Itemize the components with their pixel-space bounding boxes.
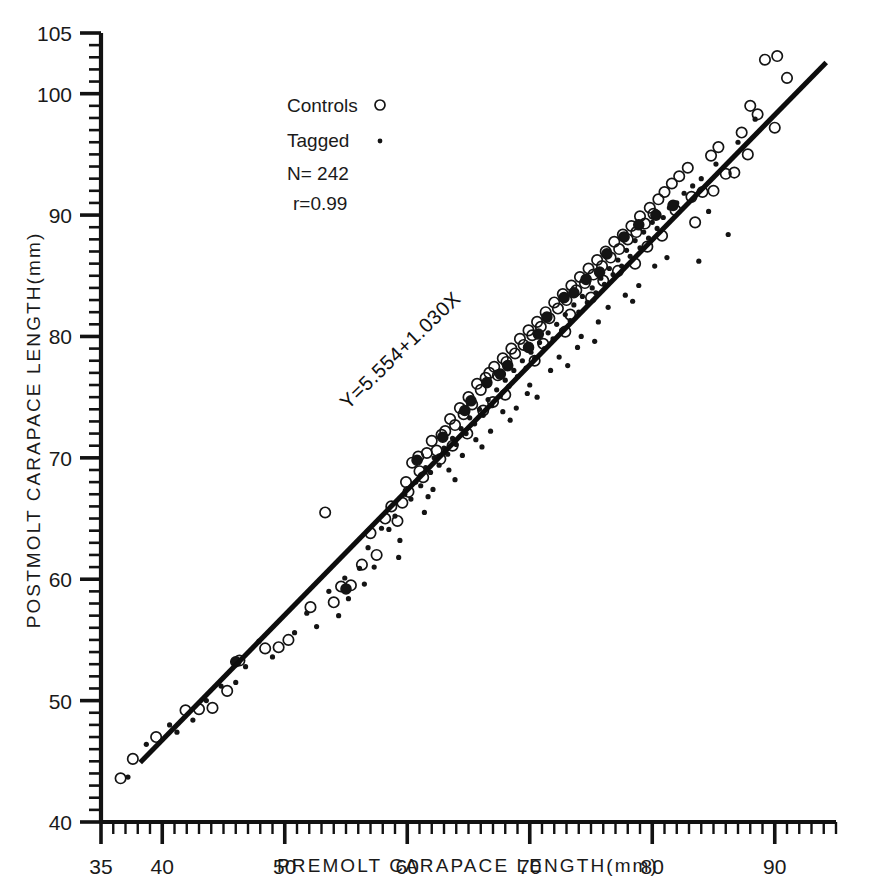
data-point-tagged (630, 299, 635, 304)
data-point-tagged (144, 742, 149, 747)
data-point-tagged (460, 453, 465, 458)
data-point-tagged (520, 358, 525, 363)
data-point-tagged (326, 589, 331, 594)
y-tick-label: 90 (49, 204, 72, 227)
data-point-tagged (430, 487, 435, 492)
data-point-overlap (542, 312, 552, 322)
data-point-tagged (606, 305, 611, 310)
data-point-overlap (503, 361, 513, 371)
x-tick-label: 90 (763, 855, 786, 878)
data-point-overlap (412, 455, 422, 465)
data-point-tagged (690, 183, 695, 188)
data-point-tagged (336, 613, 341, 618)
data-point-tagged (243, 664, 248, 669)
data-point-tagged (548, 368, 553, 373)
data-point-tagged (546, 330, 551, 335)
y-tick-label: 100 (37, 83, 72, 106)
data-point-overlap (559, 293, 569, 303)
y-tick-label: 50 (49, 690, 72, 713)
data-point-tagged (342, 575, 347, 580)
data-point-tagged (579, 334, 584, 339)
data-point-overlap (341, 584, 351, 594)
data-point-tagged (422, 510, 427, 515)
data-point-overlap (619, 232, 629, 242)
data-point-tagged (397, 538, 402, 543)
legend-label-controls: Controls (287, 95, 358, 116)
data-point-overlap (438, 432, 448, 442)
data-point-tagged (696, 259, 701, 264)
scatter-plot-figure: 405060708090100105 35405060708090 Y=5.55… (0, 0, 896, 891)
data-point-overlap (602, 249, 612, 259)
data-point-tagged (167, 722, 172, 727)
data-point-tagged (554, 322, 559, 327)
data-point-overlap (482, 378, 492, 388)
data-point-tagged (292, 630, 297, 635)
data-point-tagged (592, 339, 597, 344)
data-point-tagged (535, 395, 540, 400)
data-point-tagged (372, 564, 377, 569)
y-tick-label: 105 (37, 22, 72, 45)
data-point-tagged (636, 283, 641, 288)
data-point-overlap (668, 200, 678, 210)
data-point-tagged (494, 387, 499, 392)
data-point-tagged (726, 232, 731, 237)
data-point-tagged (623, 293, 628, 298)
data-point-overlap (524, 342, 534, 352)
legend-marker-dot-icon (378, 139, 383, 144)
data-point-tagged (571, 302, 576, 307)
data-point-overlap (634, 220, 644, 230)
data-point-tagged (233, 680, 238, 685)
x-axis-title: PREMOLT CARAPACE LENGTH(mm) (277, 855, 659, 876)
data-point-tagged (706, 209, 711, 214)
data-point-overlap (466, 396, 476, 406)
y-tick-label: 80 (49, 325, 72, 348)
y-tick-label: 60 (49, 568, 72, 591)
data-point-tagged (446, 467, 451, 472)
data-point-tagged (346, 596, 351, 601)
y-tick-label: 40 (49, 811, 72, 834)
data-point-tagged (314, 624, 319, 629)
data-point-overlap (460, 406, 470, 416)
legend-correlation: r=0.99 (293, 193, 347, 214)
y-tick-label: 70 (49, 447, 72, 470)
data-point-tagged (596, 319, 601, 324)
data-point-tagged (396, 555, 401, 560)
x-tick-label: 40 (151, 855, 174, 878)
legend-sample-size: N= 242 (287, 163, 349, 184)
data-point-tagged (479, 444, 484, 449)
data-point-overlap (651, 210, 661, 220)
data-point-tagged (525, 391, 530, 396)
data-point-tagged (270, 654, 275, 659)
data-point-tagged (190, 717, 195, 722)
data-point-tagged (500, 409, 505, 414)
x-tick-label: 35 (89, 855, 112, 878)
data-point-tagged (557, 355, 562, 360)
data-point-tagged (664, 255, 669, 260)
data-point-tagged (575, 345, 580, 350)
data-point-tagged (379, 526, 384, 531)
data-point-overlap (595, 267, 605, 277)
legend-label-tagged: Tagged (287, 130, 349, 151)
data-point-tagged (452, 477, 457, 482)
data-point-overlap (569, 288, 579, 298)
data-point-overlap (581, 274, 591, 284)
data-point-tagged (527, 382, 532, 387)
data-point-tagged (514, 405, 519, 410)
data-point-tagged (590, 285, 595, 290)
data-point-overlap (495, 369, 505, 379)
data-point-tagged (425, 494, 430, 499)
data-point-tagged (652, 263, 657, 268)
data-point-tagged (508, 418, 513, 423)
data-point-tagged (418, 483, 423, 488)
data-point-tagged (565, 363, 570, 368)
data-point-tagged (386, 527, 391, 532)
data-point-tagged (473, 437, 478, 442)
data-point-tagged (365, 545, 370, 550)
data-point-overlap (533, 329, 543, 339)
data-point-tagged (362, 581, 367, 586)
y-axis-title: POSTMOLT CARAPACE LENGTH(mm) (23, 232, 44, 629)
data-point-tagged (488, 429, 493, 434)
data-point-tagged (699, 176, 704, 181)
data-point-tagged (713, 162, 718, 167)
data-point-tagged (735, 140, 740, 145)
